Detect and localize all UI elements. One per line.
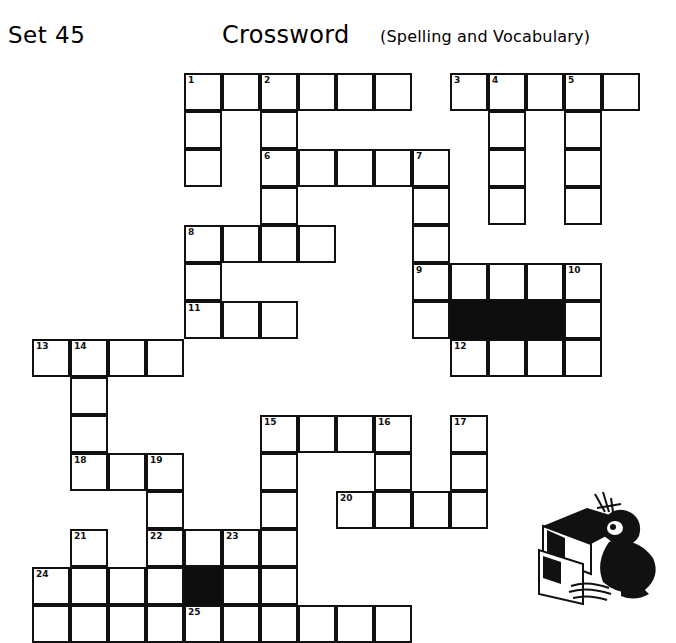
clue-number: 12 bbox=[454, 341, 467, 352]
clue-number: 23 bbox=[226, 531, 239, 542]
grid-cell[interactable] bbox=[526, 339, 564, 377]
grid-cell[interactable] bbox=[298, 605, 336, 643]
grid-cell[interactable] bbox=[336, 605, 374, 643]
grid-cell[interactable] bbox=[70, 377, 108, 415]
grid-cell[interactable] bbox=[146, 567, 184, 605]
grid-cell[interactable] bbox=[260, 187, 298, 225]
grid-cell[interactable] bbox=[184, 529, 222, 567]
grid-cell[interactable] bbox=[260, 491, 298, 529]
grid-cell[interactable]: 17 bbox=[450, 415, 488, 453]
grid-cell[interactable] bbox=[336, 415, 374, 453]
clue-number: 21 bbox=[74, 531, 87, 542]
grid-cell[interactable] bbox=[526, 73, 564, 111]
grid-cell[interactable] bbox=[108, 339, 146, 377]
grid-cell[interactable] bbox=[374, 605, 412, 643]
grid-cell[interactable]: 18 bbox=[70, 453, 108, 491]
grid-cell[interactable] bbox=[260, 529, 298, 567]
grid-cell[interactable] bbox=[564, 149, 602, 187]
grid-cell[interactable]: 22 bbox=[146, 529, 184, 567]
grid-cell[interactable] bbox=[260, 225, 298, 263]
grid-cell[interactable]: 3 bbox=[450, 73, 488, 111]
grid-cell[interactable] bbox=[412, 491, 450, 529]
grid-cell[interactable] bbox=[108, 605, 146, 643]
clue-number: 22 bbox=[150, 531, 163, 542]
grid-cell[interactable]: 15 bbox=[260, 415, 298, 453]
grid-cell[interactable] bbox=[488, 187, 526, 225]
grid-cell[interactable]: 16 bbox=[374, 415, 412, 453]
grid-cell[interactable] bbox=[184, 263, 222, 301]
grid-cell[interactable] bbox=[488, 339, 526, 377]
clue-number: 25 bbox=[188, 607, 201, 618]
grid-cell[interactable] bbox=[184, 149, 222, 187]
grid-cell[interactable] bbox=[222, 73, 260, 111]
grid-cell[interactable] bbox=[374, 453, 412, 491]
grid-cell[interactable]: 6 bbox=[260, 149, 298, 187]
grid-cell[interactable]: 14 bbox=[70, 339, 108, 377]
grid-cell[interactable] bbox=[32, 605, 70, 643]
grid-cell[interactable] bbox=[412, 225, 450, 263]
grid-cell[interactable]: 13 bbox=[32, 339, 70, 377]
grid-cell[interactable] bbox=[564, 187, 602, 225]
grid-cell[interactable] bbox=[222, 225, 260, 263]
grid-cell[interactable] bbox=[260, 605, 298, 643]
grid-cell[interactable] bbox=[146, 339, 184, 377]
grid-cell[interactable] bbox=[222, 301, 260, 339]
grid-cell[interactable]: 21 bbox=[70, 529, 108, 567]
grid-cell[interactable] bbox=[260, 301, 298, 339]
grid-cell[interactable] bbox=[564, 339, 602, 377]
grid-cell[interactable] bbox=[260, 453, 298, 491]
grid-cell[interactable] bbox=[146, 605, 184, 643]
grid-cell[interactable] bbox=[298, 73, 336, 111]
grid-cell[interactable] bbox=[70, 567, 108, 605]
grid-cell[interactable] bbox=[450, 453, 488, 491]
grid-cell[interactable] bbox=[488, 149, 526, 187]
grid-cell[interactable]: 8 bbox=[184, 225, 222, 263]
grid-cell[interactable]: 9 bbox=[412, 263, 450, 301]
grid-cell[interactable]: 10 bbox=[564, 263, 602, 301]
grid-cell[interactable] bbox=[602, 73, 640, 111]
grid-cell[interactable]: 5 bbox=[564, 73, 602, 111]
grid-cell[interactable] bbox=[412, 187, 450, 225]
grid-cell[interactable] bbox=[298, 225, 336, 263]
grid-cell[interactable]: 25 bbox=[184, 605, 222, 643]
grid-cell[interactable] bbox=[70, 415, 108, 453]
grid-cell-blocked bbox=[450, 301, 488, 339]
grid-cell[interactable] bbox=[222, 567, 260, 605]
grid-cell[interactable] bbox=[564, 301, 602, 339]
clue-number: 8 bbox=[188, 227, 194, 238]
grid-cell[interactable]: 19 bbox=[146, 453, 184, 491]
grid-cell[interactable]: 12 bbox=[450, 339, 488, 377]
grid-cell[interactable]: 11 bbox=[184, 301, 222, 339]
grid-cell[interactable] bbox=[184, 111, 222, 149]
grid-cell[interactable] bbox=[108, 567, 146, 605]
grid-cell[interactable]: 20 bbox=[336, 491, 374, 529]
clue-number: 6 bbox=[264, 151, 270, 162]
grid-cell[interactable] bbox=[336, 149, 374, 187]
grid-cell[interactable] bbox=[336, 73, 374, 111]
grid-cell[interactable] bbox=[526, 263, 564, 301]
grid-cell[interactable] bbox=[374, 491, 412, 529]
grid-cell[interactable] bbox=[260, 111, 298, 149]
grid-cell[interactable] bbox=[488, 111, 526, 149]
grid-cell[interactable] bbox=[298, 149, 336, 187]
grid-cell[interactable] bbox=[450, 263, 488, 301]
grid-cell[interactable]: 2 bbox=[260, 73, 298, 111]
grid-cell[interactable] bbox=[412, 301, 450, 339]
grid-cell[interactable]: 1 bbox=[184, 73, 222, 111]
grid-cell[interactable] bbox=[374, 149, 412, 187]
grid-cell[interactable] bbox=[222, 605, 260, 643]
grid-cell[interactable]: 23 bbox=[222, 529, 260, 567]
grid-cell[interactable]: 7 bbox=[412, 149, 450, 187]
grid-cell[interactable] bbox=[260, 567, 298, 605]
grid-cell[interactable] bbox=[450, 491, 488, 529]
grid-cell[interactable] bbox=[564, 111, 602, 149]
grid-cell-blocked bbox=[488, 301, 526, 339]
grid-cell[interactable] bbox=[108, 453, 146, 491]
grid-cell[interactable] bbox=[298, 415, 336, 453]
grid-cell[interactable] bbox=[146, 491, 184, 529]
grid-cell[interactable] bbox=[488, 263, 526, 301]
grid-cell[interactable]: 24 bbox=[32, 567, 70, 605]
grid-cell[interactable] bbox=[70, 605, 108, 643]
grid-cell[interactable]: 4 bbox=[488, 73, 526, 111]
grid-cell[interactable] bbox=[374, 73, 412, 111]
